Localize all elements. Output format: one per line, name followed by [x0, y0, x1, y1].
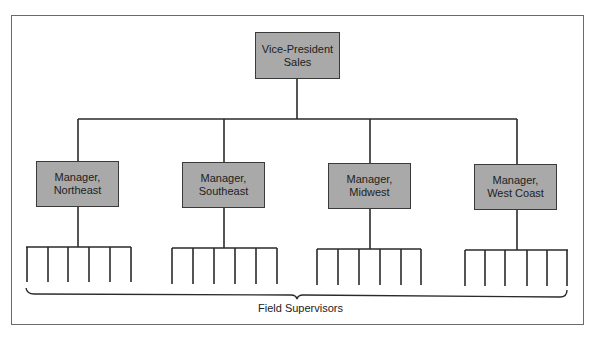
field-supervisors-label: Field Supervisors [258, 302, 343, 314]
manager-west-coast-box: Manager, West Coast [474, 164, 557, 210]
field-supervisors-brace [26, 288, 567, 299]
vp-sales-label: Vice-President Sales [262, 43, 333, 69]
manager-midwest-box: Manager, Midwest [328, 163, 411, 209]
manager-midwest-label: Manager, Midwest [347, 173, 393, 199]
manager-west-coast-label: Manager, West Coast [487, 174, 544, 200]
vp-sales-box: Vice-President Sales [255, 32, 340, 79]
manager-southeast-box: Manager, Southeast [182, 162, 265, 208]
manager-northeast-box: Manager, Northeast [36, 161, 119, 207]
manager-northeast-label: Manager, Northeast [54, 171, 102, 197]
manager-southeast-label: Manager, Southeast [199, 172, 249, 198]
